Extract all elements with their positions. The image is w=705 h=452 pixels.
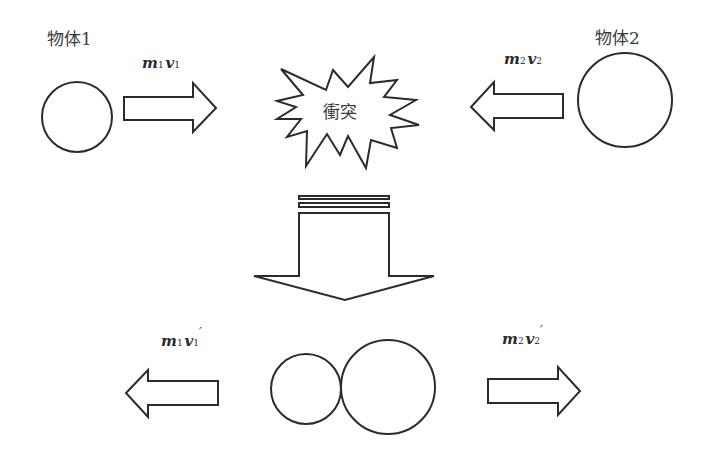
object1-after-momentum-label: m1v1′ [161,326,202,350]
arrow-stripe-1 [299,196,389,199]
collision-diagram: 物体1 m1v1 衝突 m2v2 物体2 m1v1′ m2v2′ [0,0,705,452]
object2-label: 物体2 [595,28,640,48]
object2-after-momentum-label: m2v2′ [502,324,543,348]
collision-label: 衝突 [323,102,357,122]
object1-label: 物体1 [47,29,92,49]
object1-after-arrow-left-icon [126,370,218,417]
object2-momentum-label: m2v2 [504,50,542,68]
after-collision-group: m1v1′ m2v2′ [126,324,580,434]
object2-arrow-left-icon [471,82,563,130]
object1-momentum-label: m1v1 [142,54,180,72]
arrow-stripe-2 [299,203,389,207]
arrow-down-body [254,213,434,300]
object1-arrow-right-icon [124,83,216,132]
object1-circle [42,82,112,152]
object2-after-arrow-right-icon [488,367,580,415]
object2-circle [578,53,672,147]
transition-arrow-down-icon [254,196,434,300]
object2-after-circle [341,340,435,434]
object1-after-circle [271,354,341,424]
before-collision-group: 物体1 m1v1 衝突 m2v2 物体2 [42,28,672,168]
